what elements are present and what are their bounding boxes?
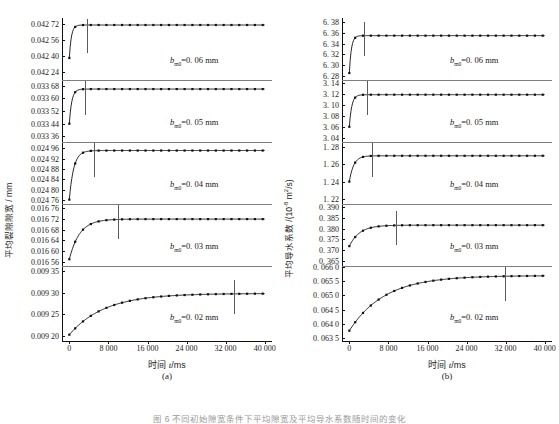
data-point-marker [393, 290, 395, 292]
data-point-marker [74, 241, 76, 243]
x-tick-label: 16 000 [137, 344, 159, 353]
y-tick-label: 0.033 68 [1, 81, 59, 90]
data-point-marker [82, 320, 84, 322]
data-point-marker [471, 276, 473, 278]
data-point-marker [168, 88, 170, 90]
data-point-marker [160, 149, 162, 151]
data-point-marker [121, 149, 123, 151]
data-point-marker [98, 310, 100, 312]
data-point-marker [534, 35, 536, 37]
data-point-marker [183, 294, 185, 296]
x-tick-label: 8 000 [99, 344, 117, 353]
data-point-marker [238, 149, 240, 151]
y-tick-label: 3. 08 [281, 111, 339, 120]
data-point-marker [526, 224, 528, 226]
data-point-marker [238, 24, 240, 26]
data-point-marker [440, 155, 442, 157]
data-point-marker [121, 88, 123, 90]
data-point-marker [144, 88, 146, 90]
data-point-marker [176, 218, 178, 220]
data-point-marker [199, 293, 201, 295]
y-tick-label: 0. 375 [281, 235, 339, 244]
data-point-marker [448, 94, 450, 96]
data-point-marker [542, 35, 544, 37]
data-point-marker [160, 88, 162, 90]
data-point-marker [448, 278, 450, 280]
data-point-marker [424, 281, 426, 283]
data-point-marker [152, 88, 154, 90]
data-point-marker [463, 155, 465, 157]
data-point-marker [238, 218, 240, 220]
data-point-marker [348, 126, 350, 128]
data-point-marker [199, 88, 201, 90]
data-point-marker [503, 155, 505, 157]
data-point-marker [463, 35, 465, 37]
x-axis-title-unit: /ms [171, 360, 186, 370]
y-tick-label: 0. 385 [281, 213, 339, 222]
y-tick-label: 1. 26 [281, 160, 339, 169]
subplot-curve [62, 204, 278, 266]
data-point-marker [199, 24, 201, 26]
y-tick-label: 0.016 56 [1, 257, 59, 266]
data-point-marker [424, 224, 426, 226]
y-tick-label: 0.016 72 [1, 214, 59, 223]
data-point-marker [432, 35, 434, 37]
data-point-marker [137, 88, 139, 90]
data-point-marker [348, 245, 350, 247]
x-tick-label: 32 000 [495, 344, 517, 353]
data-point-marker [176, 88, 178, 90]
data-point-marker [463, 224, 465, 226]
data-point-marker [370, 94, 372, 96]
steady-state-marker-line [118, 205, 119, 239]
subplot-x-axis-spine [342, 341, 552, 342]
data-point-marker [487, 276, 489, 278]
subplot-curve [342, 266, 558, 342]
data-point-marker [223, 218, 225, 220]
data-point-marker [354, 236, 356, 238]
data-point-marker [370, 35, 372, 37]
x-tick-label: 40 000 [534, 344, 556, 353]
annotation-value: =0. 02 mm [181, 312, 218, 322]
subplot-curve [342, 18, 558, 80]
steady-state-marker-line [364, 22, 365, 56]
annotation-value: =0. 03 mm [181, 241, 218, 251]
steady-state-marker-line [372, 143, 373, 177]
data-point-marker [207, 218, 209, 220]
y-tick-label: 0.016 76 [1, 204, 59, 213]
data-point-marker [98, 149, 100, 151]
subplot-annotation: bm0=0. 05 mm [170, 117, 218, 129]
data-point-marker [479, 276, 481, 278]
data-point-marker [168, 295, 170, 297]
data-point-marker [378, 35, 380, 37]
steady-state-marker-line [505, 267, 506, 301]
x-tick-label: 16 000 [417, 344, 439, 353]
data-point-marker [246, 149, 248, 151]
y-tick-label: 0.016 60 [1, 247, 59, 256]
data-point-marker [90, 24, 92, 26]
subplot-annotation: bm0=0. 03 mm [450, 241, 498, 253]
y-tick-label: 0.033 52 [1, 107, 59, 116]
y-tick-label: 0.016 64 [1, 236, 59, 245]
data-point-marker [456, 277, 458, 279]
y-tick-label: 3. 12 [281, 90, 339, 99]
y-tick-label: 6. 30 [281, 61, 339, 70]
data-point-marker [98, 220, 100, 222]
figure-caption: 图 6 不同初始隙宽条件下平均隙宽及平均导水系数随时间的变化 [0, 412, 559, 424]
data-point-marker [370, 227, 372, 229]
subplot-b-2: 3. 143. 123. 103. 083. 063. 04bm0=0. 05 … [342, 80, 552, 142]
data-point-marker [534, 94, 536, 96]
data-point-marker [254, 218, 256, 220]
y-tick-label: 0. 064 5 [281, 305, 339, 314]
y-tick-label: 0. 370 [281, 245, 339, 254]
data-point-marker [479, 94, 481, 96]
data-point-marker [495, 155, 497, 157]
y-tick-label: 0. 065 5 [281, 277, 339, 286]
data-point-marker [362, 312, 364, 314]
subplot-a-4: 0.016 760.016 720.016 680.016 640.016 60… [62, 204, 272, 266]
data-point-marker [68, 57, 70, 59]
data-point-marker [479, 35, 481, 37]
panel-b: 平均导水系数 /(10-8 m2/s) 6. 386. 366. 346. 32… [280, 0, 559, 422]
data-point-marker [262, 293, 264, 295]
subplot-annotation: bm0=0. 02 mm [450, 312, 498, 324]
data-point-marker [471, 35, 473, 37]
